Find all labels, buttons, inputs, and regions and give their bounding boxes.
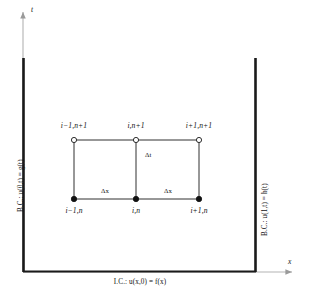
left-boundary-condition-label: B.C.: u(0,t) = g(t) <box>18 159 25 212</box>
right-boundary-condition-label: B.C.: u(1,t) = h(t) <box>262 183 269 236</box>
node-label-i-n: i,n <box>132 207 140 215</box>
finite-difference-stencil-figure: t x i−1,n+1 i,n+1 i+1,n+1 i−1,n i,n i+1,… <box>0 0 312 299</box>
space-step-label-right: Δx <box>164 188 172 195</box>
node-label-i-minus-1-n-plus-1: i−1,n+1 <box>61 122 87 130</box>
domain-boundary-group <box>23 58 256 272</box>
node-label-i-minus-1-n: i−1,n <box>65 207 82 215</box>
space-step-label-left: Δx <box>101 188 109 195</box>
filled-circle-marker-i-plus-1-n <box>196 196 201 201</box>
open-circle-marker-i-minus-1-n-plus-1 <box>71 137 76 142</box>
open-circle-marker-i-plus-1-n-plus-1 <box>196 137 201 142</box>
time-step-label: Δt <box>145 152 151 159</box>
open-circle-marker-i-n-plus-1 <box>133 137 138 142</box>
stencil-diagram-canvas <box>0 0 312 299</box>
y-axis-label: t <box>31 6 33 14</box>
node-label-i-plus-1-n-plus-1: i+1,n+1 <box>186 122 212 130</box>
initial-condition-label: I.C.: u(x,0) = f(x) <box>114 279 166 286</box>
filled-circle-marker-i-minus-1-n <box>71 196 76 201</box>
axis-group <box>23 12 292 272</box>
filled-circle-marker-i-n <box>133 196 138 201</box>
node-label-i-plus-1-n: i+1,n <box>190 207 207 215</box>
stencil-edges <box>74 140 199 199</box>
x-axis-label: x <box>288 258 291 266</box>
node-label-i-n-plus-1: i,n+1 <box>127 122 144 130</box>
